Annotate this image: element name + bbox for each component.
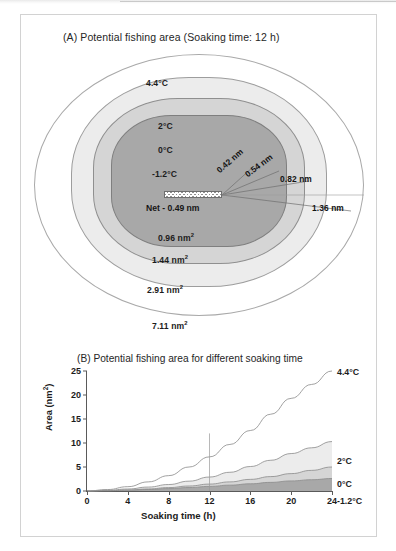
y-tick-5: 5 [76, 462, 81, 472]
panel-b-area-vs-soaking-time: (B) Potential fishing area for different… [21, 333, 376, 538]
y-tick-25: 25 [71, 366, 81, 376]
x-tick-mark-24 [332, 491, 333, 495]
plot-curves [87, 371, 332, 491]
panel-a-potential-fishing-area: (A) Potential fishing area (Soaking time… [21, 15, 376, 333]
figure-frame: (A) Potential fishing area (Soaking time… [20, 14, 377, 537]
x-tick-mark-12 [210, 491, 211, 495]
y-tick-mark-20 [83, 395, 87, 396]
x-tick-0: 0 [84, 496, 89, 506]
net-length-label: Net - 0.49 nm [146, 203, 200, 213]
x-tick-4: 4 [125, 496, 130, 506]
x-tick-mark-20 [291, 491, 292, 495]
x-tick-mark-16 [250, 491, 251, 495]
y-tick-mark-5 [83, 467, 87, 468]
curve-label-0c: 0°C [337, 479, 352, 489]
x-tick-8: 8 [166, 496, 171, 506]
y-tick-20: 20 [71, 390, 81, 400]
y-tick-15: 15 [71, 414, 81, 424]
x-tick-16: 16 [245, 496, 255, 506]
distance-leader-lines [21, 15, 376, 333]
area-label-7-11: 7.11 nm2 [152, 321, 188, 331]
y-tick-mark-10 [83, 443, 87, 444]
y-axis-label: Area (nm2) [43, 384, 54, 431]
x-tick-20: 20 [286, 496, 296, 506]
panel-b-title: (B) Potential fishing area for different… [77, 353, 377, 364]
x-tick-mark-8 [169, 491, 170, 495]
area-label-0-96: 0.96 nm2 [158, 233, 194, 243]
x-tick-12: 12 [204, 496, 214, 506]
area-label-1-44: 1.44 nm2 [152, 255, 188, 265]
curve-label-4-4c: 4.4°C [337, 367, 359, 377]
plot-area: 051015202504812162024 [86, 371, 332, 492]
x-tick-mark-4 [128, 491, 129, 495]
y-tick-mark-15 [83, 419, 87, 420]
y-tick-0: 0 [76, 486, 81, 496]
curve-label-minus1-2c: -1.2°C [337, 496, 362, 506]
fishing-net-bar [164, 191, 222, 198]
distance-label-1-36nm: 1.36 nm [312, 203, 344, 213]
distance-label-0-82nm: 0.82 nm [280, 174, 312, 184]
scan-rule-top [120, 1, 396, 2]
curve-label-2c: 2°C [337, 456, 352, 466]
x-axis-label: Soaking time (h) [141, 510, 216, 521]
y-tick-mark-25 [83, 371, 87, 372]
x-tick-24: 24 [327, 496, 337, 506]
area-label-2-91: 2.91 nm2 [147, 285, 183, 295]
y-tick-10: 10 [71, 438, 81, 448]
x-tick-mark-0 [87, 491, 88, 495]
